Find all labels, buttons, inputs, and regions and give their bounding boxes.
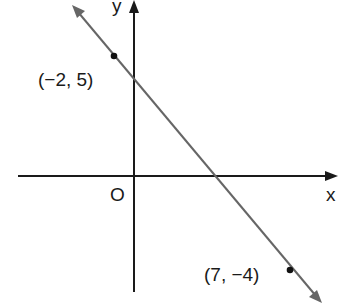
origin-label: O bbox=[110, 184, 125, 205]
point-neg2-5 bbox=[111, 53, 118, 60]
line-arrow-up-icon bbox=[72, 5, 85, 18]
x-axis bbox=[18, 171, 338, 181]
point-7-neg4 bbox=[287, 267, 294, 274]
y-axis bbox=[129, 0, 139, 292]
point-label-neg2-5: (−2, 5) bbox=[38, 69, 93, 90]
y-axis-label: y bbox=[112, 0, 122, 16]
y-axis-arrow-icon bbox=[129, 0, 139, 13]
graph-line bbox=[72, 5, 322, 303]
x-axis-arrow-icon bbox=[325, 171, 338, 181]
x-axis-label: x bbox=[326, 184, 336, 205]
point-label-7-neg4: (7, −4) bbox=[204, 264, 259, 285]
coordinate-diagram: y x O (−2, 5) (7, −4) bbox=[0, 0, 342, 306]
line-arrow-down-icon bbox=[309, 290, 322, 303]
